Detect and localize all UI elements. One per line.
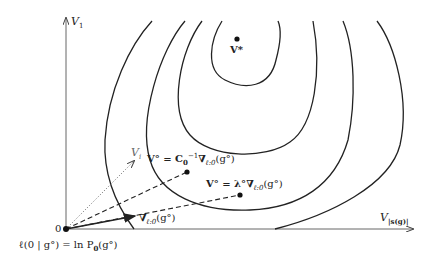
optimum-dot <box>234 36 239 41</box>
origin-equation-lhs: ℓ(0 | g°) = ln P <box>19 239 93 250</box>
x-axis-label-sub: |s(g)| <box>388 217 409 226</box>
y-axis-label: V1 <box>71 16 83 27</box>
gradient-label-nabla: ∇ <box>139 212 147 223</box>
contour-2 <box>178 21 316 154</box>
scaled-label-lhs: V° = λ° <box>206 178 246 189</box>
gradient-label: ∇ℓ:0(g°) <box>139 213 175 223</box>
contour-innermost <box>211 21 280 85</box>
contour-diagram <box>0 0 438 263</box>
gradient-label-sub: ℓ:0 <box>147 218 157 226</box>
origin-equation-rhs: (g°) <box>98 239 117 250</box>
vi-label-sub: i <box>139 153 141 161</box>
gradient-label-arg: (g°) <box>156 212 175 223</box>
newton-label: V° = C0−1∇ℓ:0(g°) <box>147 154 235 164</box>
newton-label-c-sup: −1 <box>188 152 198 160</box>
newton-label-nabla-sub: ℓ:0 <box>206 159 216 167</box>
x-axis-label-main: V <box>380 211 388 224</box>
scaled-dot <box>237 192 242 197</box>
vi-label-main: V <box>131 146 139 159</box>
optimum-label: V* <box>230 45 243 55</box>
origin-equation: ℓ(0 | g°) = ln P0(g°) <box>19 240 117 250</box>
y-axis-label-main: V <box>71 15 79 28</box>
vi-label: Vi <box>131 147 141 158</box>
newton-label-nabla: ∇ <box>198 153 206 164</box>
y-axis-label-sub: 1 <box>79 22 83 30</box>
scaled-label: V° = λ°∇ℓ:0(g°) <box>206 179 283 189</box>
newton-dot <box>184 169 189 174</box>
newton-label-lhs: V° = <box>147 153 175 164</box>
scaled-label-arg: (g°) <box>263 178 282 189</box>
scaled-label-nabla-sub: ℓ:0 <box>254 184 264 192</box>
newton-label-c: C <box>175 153 183 164</box>
x-axis-label: V|s(g)| <box>380 212 409 223</box>
origin-dot <box>63 226 69 232</box>
contour-leftmost <box>105 21 152 229</box>
contour-outer <box>275 21 403 229</box>
scaled-label-nabla: ∇ <box>246 178 254 189</box>
origin-label: 0 <box>55 224 61 234</box>
newton-label-arg: (g°) <box>216 153 235 164</box>
